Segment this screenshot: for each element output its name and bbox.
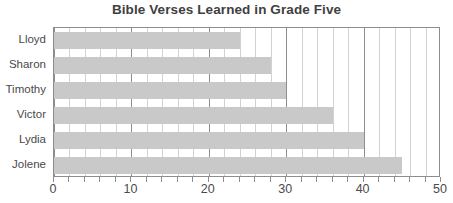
bar-band [54,53,439,78]
x-tick-label: 30 [278,182,292,196]
x-tick-label: 10 [123,182,137,196]
bar [54,107,333,124]
category-axis-labels: LloydSharonTimothyVictorLydiaJolene [0,27,50,177]
bar [54,82,286,99]
x-tick-label: 50 [433,182,447,196]
category-label: Victor [0,102,46,127]
x-tick-label: 0 [50,182,57,196]
category-label: Lydia [0,127,46,152]
category-label: Jolene [0,152,46,177]
bar-band [54,153,439,177]
bar [54,132,364,149]
bar-band [54,103,439,128]
bar [54,32,240,49]
x-tick-label: 40 [356,182,370,196]
category-label: Lloyd [0,27,46,52]
bar [54,157,402,174]
category-label: Timothy [0,77,46,102]
category-label: Sharon [0,52,46,77]
x-tick-label: 20 [201,182,215,196]
bar-series [54,28,439,176]
plot-area [53,27,440,177]
bar-band [54,78,439,103]
x-axis-labels: 01020304050 [0,182,453,202]
bar-band [54,28,439,53]
bar [54,57,271,74]
bar-chart: Bible Verses Learned in Grade Five Lloyd… [0,0,453,203]
bar-band [54,128,439,153]
chart-title: Bible Verses Learned in Grade Five [0,2,453,17]
